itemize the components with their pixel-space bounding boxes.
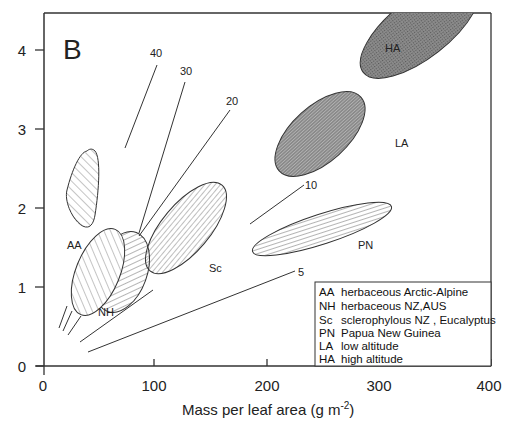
svg-text:HA: HA (319, 353, 335, 365)
region-pn (248, 192, 396, 266)
line-label-10: 10 (305, 179, 317, 191)
line-label-20: 20 (226, 95, 238, 107)
svg-text:PN: PN (319, 327, 335, 339)
y-tick-label: 3 (18, 121, 26, 138)
legend-entry: AA herbaceous Arctic-Alpine (319, 286, 468, 298)
x-tick-label: 0 (39, 377, 47, 394)
svg-text:herbaceous NZ,AUS: herbaceous NZ,AUS (341, 300, 447, 312)
region-label-ha: HA (385, 42, 401, 54)
legend-entry: HA high altitude (319, 353, 403, 365)
svg-text:NH: NH (319, 300, 336, 312)
svg-text:AA: AA (319, 286, 335, 298)
ref-line-20 (68, 316, 81, 335)
region-sc-shape (132, 170, 241, 287)
legend: AA herbaceous Arctic-Alpine NH herbaceou… (315, 282, 496, 366)
region-label-pn: PN (358, 239, 373, 251)
x-tick-label: 200 (254, 377, 279, 394)
region-la (260, 76, 379, 191)
ref-line-10-upper (250, 185, 304, 224)
y-tick-label: 2 (18, 200, 26, 217)
legend-entry: Sc sclerophylous NZ , Eucalyptus (319, 314, 496, 326)
y-ticks: 0 1 2 3 4 (18, 42, 44, 375)
y-tick-label: 4 (18, 42, 26, 59)
y-tick-label: 0 (18, 358, 26, 375)
region-label-sc: Sc (209, 262, 222, 274)
line-label-5: 5 (298, 266, 304, 278)
svg-text:low altitude: low altitude (341, 340, 399, 352)
regions (60, 0, 495, 323)
region-label-nh: NH (98, 306, 114, 318)
region-label-aa: AA (67, 239, 82, 251)
x-tick-label: 300 (366, 377, 391, 394)
x-tick-label: 100 (141, 377, 166, 394)
panel-label: B (63, 34, 82, 65)
region-label-la: LA (395, 137, 409, 149)
legend-entry: LA low altitude (319, 340, 399, 352)
svg-text:high altitude: high altitude (341, 353, 403, 365)
x-tick-label: 400 (476, 377, 501, 394)
svg-text:LA: LA (319, 340, 333, 352)
line-label-40: 40 (150, 47, 162, 59)
ref-line-40-upper (125, 65, 157, 148)
svg-text:Papua New Guinea: Papua New Guinea (341, 327, 441, 339)
svg-text:sclerophylous NZ , Eucalyptus: sclerophylous NZ , Eucalyptus (341, 314, 496, 326)
region-ha (345, 0, 495, 96)
region-aa-upper (66, 149, 98, 227)
line-label-30: 30 (180, 65, 192, 77)
x-axis-title: Mass per leaf area (g m-2) (182, 400, 354, 418)
svg-text:Sc: Sc (319, 314, 333, 326)
y-tick-label: 1 (18, 279, 26, 296)
chart: 0 1 2 3 4 0 100 200 300 400 Mass per lea… (0, 0, 510, 427)
svg-text:herbaceous Arctic-Alpine: herbaceous Arctic-Alpine (341, 286, 468, 298)
